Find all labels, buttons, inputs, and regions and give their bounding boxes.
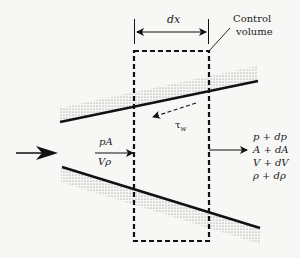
diagram-canvas: dx Control volume pA Vρ τw p + dp A + dA… — [0, 0, 300, 258]
control-volume-leader — [209, 28, 230, 51]
control-volume-label-line2: volume — [236, 27, 273, 37]
outlet-velocity-label: V + dV — [253, 158, 289, 168]
outlet-area-label: A + dA — [253, 145, 289, 155]
control-volume-label-line1: Control — [233, 14, 271, 24]
inflow-arrow-icon — [16, 146, 58, 160]
diagram-graphics — [0, 0, 300, 258]
outlet-pressure-label: p + dp — [253, 132, 287, 142]
lower-wall-stipple — [61, 168, 260, 244]
inlet-velocity-density-label: Vρ — [98, 157, 111, 167]
upper-wall-stipple — [60, 66, 258, 122]
dx-label: dx — [167, 14, 180, 25]
wall-shear-arrow — [153, 103, 196, 117]
inlet-pressure-area-label: pA — [99, 137, 113, 147]
wall-shear-label: τw — [175, 120, 187, 133]
outlet-density-label: ρ + dρ — [253, 171, 286, 181]
lower-wall-line — [62, 167, 260, 228]
